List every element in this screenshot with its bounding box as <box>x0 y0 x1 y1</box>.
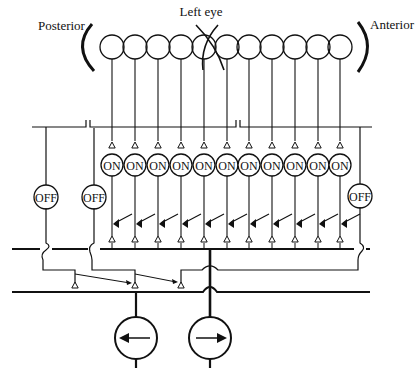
on-column: ON <box>193 59 224 249</box>
on-column: ON <box>216 59 247 249</box>
off-unit: OFF <box>34 185 58 209</box>
on-unit-label: ON <box>126 159 144 173</box>
off-unit: OFF <box>82 185 106 209</box>
receptor-circle <box>283 35 307 59</box>
receptor-circle <box>123 35 147 59</box>
on-unit-columns: ONONONONONONONONONONON <box>101 59 360 249</box>
on-unit-label: ON <box>172 159 190 173</box>
receptor-circle <box>146 35 170 59</box>
on-unit-label: ON <box>195 159 213 173</box>
off-units: OFFOFFOFF <box>34 184 372 209</box>
off-unit-label: OFF <box>83 191 105 205</box>
on-column: ON <box>261 59 292 249</box>
eye-circuit-diagram: Posterior Left eye Anterior ONONONONONON… <box>0 0 418 379</box>
on-unit-label: ON <box>149 159 167 173</box>
on-unit-label: ON <box>309 159 327 173</box>
off-unit-label: OFF <box>349 190 371 204</box>
receptor-circle <box>100 35 124 59</box>
on-column: ON <box>329 59 360 249</box>
on-unit-label: ON <box>240 159 258 173</box>
receptor-circle <box>328 35 352 59</box>
on-unit-label: ON <box>286 159 304 173</box>
receptor-circle <box>192 35 216 59</box>
on-column: ON <box>147 59 178 249</box>
on-unit-label: ON <box>263 159 281 173</box>
on-column: ON <box>101 59 132 249</box>
on-column: ON <box>170 59 201 249</box>
left-eye-marker <box>196 25 224 70</box>
receptor-circle <box>237 35 261 59</box>
on-column: ON <box>307 59 338 249</box>
on-column: ON <box>284 59 315 249</box>
posterior-label: Posterior <box>38 18 86 33</box>
on-unit-label: ON <box>103 159 121 173</box>
off-unit: OFF <box>348 184 372 208</box>
off-unit-label: OFF <box>35 191 57 205</box>
motor-unit-left <box>115 317 157 359</box>
left-eye-label: Left eye <box>180 4 223 19</box>
receptor-circle <box>306 35 330 59</box>
receptor-circle <box>260 35 284 59</box>
on-column: ON <box>238 59 269 249</box>
anterior-label: Anterior <box>370 17 415 32</box>
receptor-circle <box>169 35 193 59</box>
on-unit-label: ON <box>331 159 349 173</box>
on-unit-label: ON <box>218 159 236 173</box>
on-column: ON <box>124 59 155 249</box>
receptor-row <box>100 35 352 59</box>
motor-unit-right <box>189 317 231 359</box>
anterior-bracket <box>358 22 368 72</box>
